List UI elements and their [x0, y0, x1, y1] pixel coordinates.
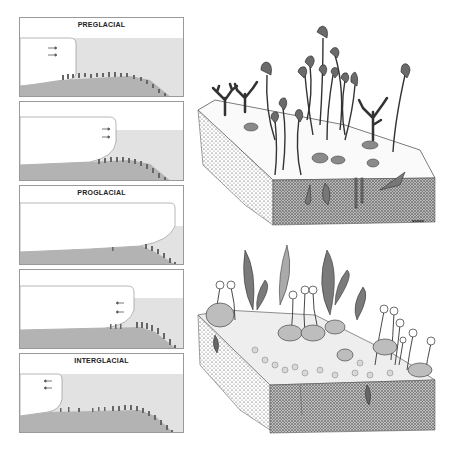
panel-title: PROGLACIAL	[20, 189, 183, 196]
artist-signature: ʙᴏᴘᴋᴀ	[412, 218, 424, 223]
panel-proglacial: PROGLACIAL	[19, 185, 184, 265]
cross-section-diagram	[20, 102, 184, 181]
panel-title: PREGLACIAL	[20, 21, 183, 28]
cross-section-diagram	[20, 354, 184, 433]
cross-section-diagram	[20, 186, 184, 265]
cross-section-diagram	[20, 18, 184, 97]
seafloor-block-lower	[195, 225, 458, 450]
panel-title: INTERGLACIAL	[20, 357, 183, 364]
seafloor-block-upper: ʙᴏᴘᴋᴀ	[195, 0, 458, 230]
panel-interglacial: INTERGLACIAL	[19, 353, 184, 433]
panel-preglacial: PREGLACIAL	[19, 17, 184, 97]
panel-glacial-advance	[19, 101, 184, 181]
panel-glacial-retreat	[19, 269, 184, 349]
cross-section-diagram	[20, 270, 184, 349]
